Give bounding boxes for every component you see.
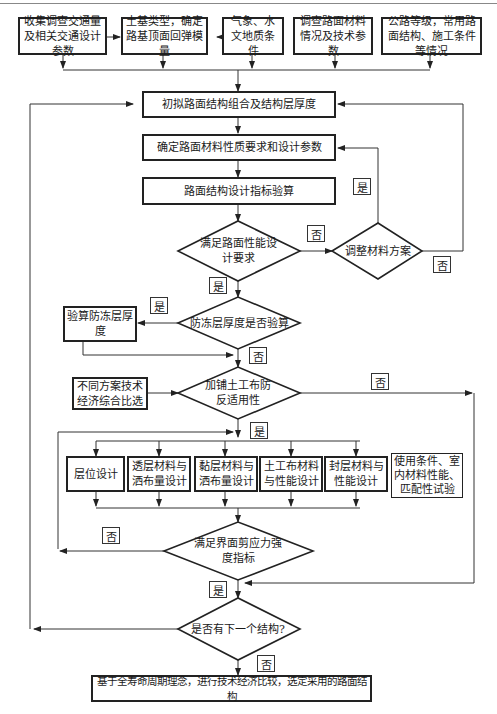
input-road-grade: 公路等级，常用路面结构、施工条件等情况 xyxy=(381,17,482,55)
tag-yes-adjust: 是 xyxy=(353,178,371,195)
step-design-check: 路面结构设计指标验算 xyxy=(142,177,336,205)
decision-frost-label: 防冻层厚度是否验算 xyxy=(183,315,295,331)
step-tech-econ-compare: 不同方案技术经济综合比选 xyxy=(72,377,148,410)
input-traffic: 收集调查交通量及相关交通设计参数 xyxy=(18,17,107,55)
decision-next-label: 是否有下一个结构? xyxy=(185,621,291,637)
tag-yes-performance: 是 xyxy=(209,277,227,294)
step-initial-structure: 初拟路面结构组合及结构层厚度 xyxy=(142,91,336,118)
tag-no-next: 否 xyxy=(257,655,275,672)
design-item-prime-coat: 透层材料与洒布量设计 xyxy=(127,456,191,492)
input-climate: 气象、水文地质条件 xyxy=(222,17,284,55)
tag-yes-geotextile: 是 xyxy=(250,422,268,439)
decision-performance-label: 满足路面性能设计要求 xyxy=(195,236,281,266)
design-item-layer: 层位设计 xyxy=(66,456,125,492)
design-item-seal-coat: 封层材料与性能设计 xyxy=(324,456,388,492)
step-final-selection: 基于全寿命周期理念，进行技术经济比较，选定采用的路面结构 xyxy=(91,675,372,702)
tag-no-performance: 否 xyxy=(307,225,325,242)
tag-no-geotextile: 否 xyxy=(371,373,389,390)
input-subgrade: 土基类型，确定路基顶面回弹模量 xyxy=(121,17,208,55)
side-note-tests: 使用条件、室内材料性能、匹配性试验 xyxy=(391,453,463,498)
decision-geotextile-label: 加铺土工布防反适用性 xyxy=(200,378,276,408)
decision-shear-label: 满足界面剪应力强度指标 xyxy=(190,536,286,566)
decision-adjust-label: 调整材料方案 xyxy=(340,243,416,259)
tag-yes-frost: 是 xyxy=(150,297,168,314)
design-item-tack-coat: 黏层材料与洒布量设计 xyxy=(194,456,258,492)
tag-no-adjust: 否 xyxy=(433,256,451,273)
tag-no-frost: 否 xyxy=(249,347,267,364)
tag-no-shear: 否 xyxy=(102,527,120,544)
design-item-geotextile: 土工布材料与性能设计 xyxy=(259,456,323,492)
input-materials: 调查路面材料情况及技术参数 xyxy=(293,17,373,55)
step-material-params: 确定路面材料性质要求和设计参数 xyxy=(142,134,336,161)
tag-yes-shear: 是 xyxy=(209,581,227,598)
step-frost-check: 验算防冻层厚度 xyxy=(63,306,137,342)
